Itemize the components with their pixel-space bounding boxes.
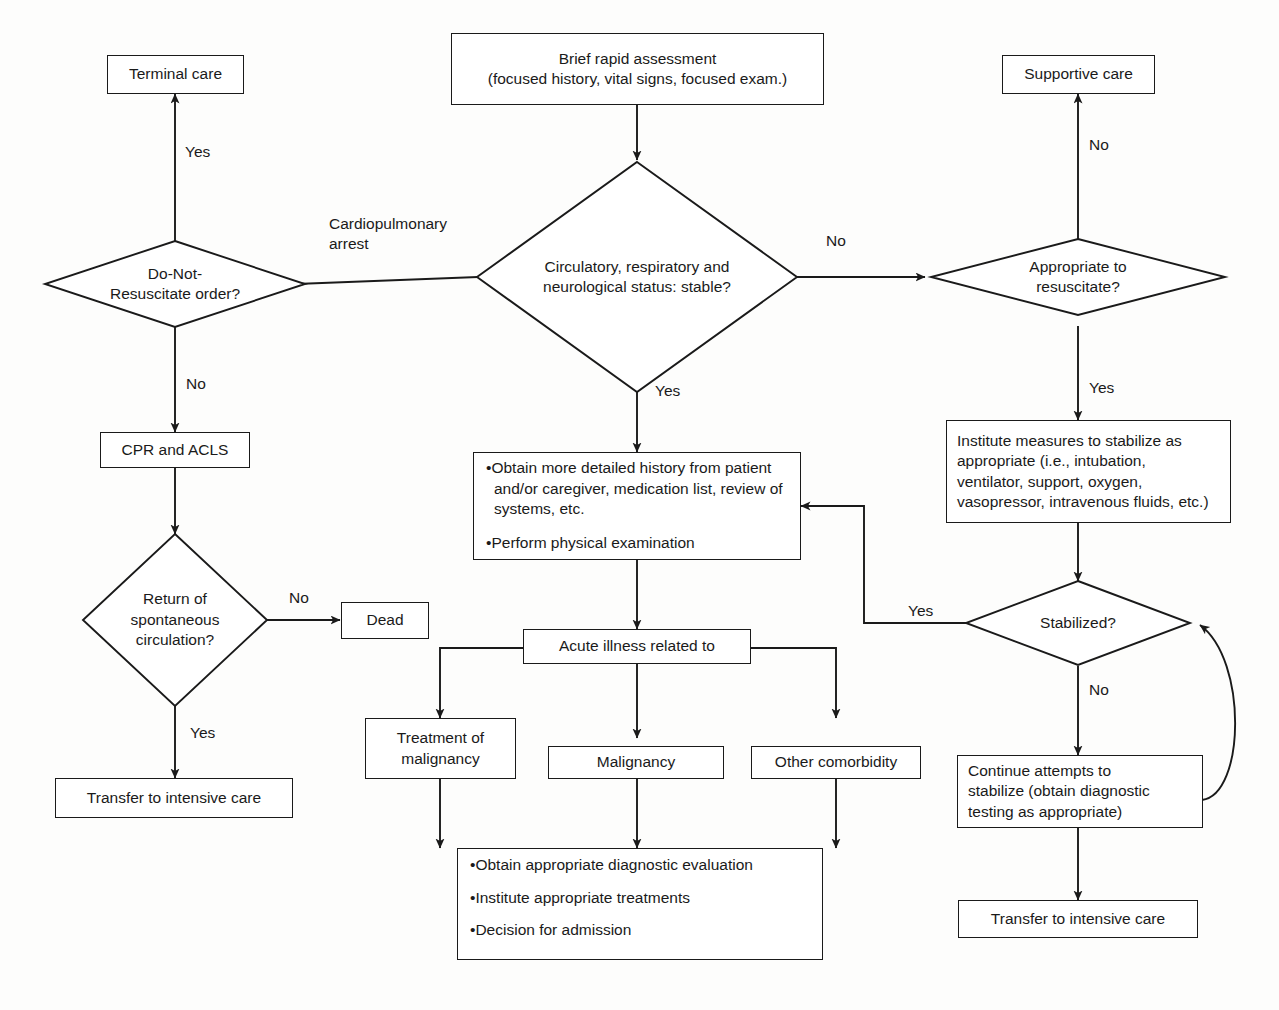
list-item: •Decision for admission	[470, 920, 810, 940]
node-transfer-to-intensive-care-left[interactable]: Transfer to intensive care	[55, 778, 293, 818]
node-malignancy-label: Malignancy	[549, 752, 723, 772]
node-acute-illness-related-to-label: Acute illness related to	[524, 636, 750, 656]
node-terminal-care[interactable]: Terminal care	[107, 55, 244, 94]
node-detailed-history[interactable]: •Obtain more detailed history from patie…	[473, 452, 801, 560]
edge-label-cardiopulmonary-arrest: Cardiopulmonary arrest	[329, 214, 447, 254]
list-item: •Obtain appropriate diagnostic evaluatio…	[470, 855, 810, 875]
edge-label-rosc-yes: Yes	[190, 723, 215, 743]
edge-label-resuscitate-no: No	[1089, 135, 1109, 155]
node-cpr-and-acls-label: CPR and ACLS	[101, 440, 249, 460]
decision-return-of-spontaneous-circulation[interactable]: Return of spontaneous circulation?	[83, 534, 267, 706]
node-diagnostic-plan[interactable]: •Obtain appropriate diagnostic evaluatio…	[457, 848, 823, 960]
decision-stabilized-label: Stabilized?	[966, 581, 1190, 665]
decision-dnr-order[interactable]: Do-Not- Resuscitate order?	[45, 241, 305, 327]
edge-label-stabilized-no: No	[1089, 680, 1109, 700]
node-transfer-to-intensive-care-right[interactable]: Transfer to intensive care	[958, 900, 1198, 938]
node-supportive-care[interactable]: Supportive care	[1002, 55, 1155, 94]
node-acute-illness-related-to[interactable]: Acute illness related to	[523, 629, 751, 664]
node-other-comorbidity-label: Other comorbidity	[752, 752, 920, 772]
node-detailed-history-bullets: •Obtain more detailed history from patie…	[474, 458, 800, 554]
list-item: •Perform physical examination	[486, 533, 788, 553]
decision-return-of-spontaneous-circulation-label: Return of spontaneous circulation?	[83, 534, 267, 706]
node-diagnostic-plan-bullets: •Obtain appropriate diagnostic evaluatio…	[458, 855, 822, 952]
edge-label-rosc-no: No	[289, 588, 309, 608]
node-brief-rapid-assessment-text: Brief rapid assessment (focused history,…	[452, 49, 823, 90]
node-other-comorbidity[interactable]: Other comorbidity	[751, 746, 921, 779]
edge-label-status-no: No	[826, 231, 846, 251]
decision-status-stable[interactable]: Circulatory, respiratory and neurologica…	[477, 162, 797, 392]
node-continue-attempts-to-stabilize[interactable]: Continue attempts to stabilize (obtain d…	[957, 755, 1203, 828]
edge-label-status-yes: Yes	[655, 381, 680, 401]
node-institute-measures-text: Institute measures to stabilize as appro…	[947, 431, 1230, 513]
node-institute-measures[interactable]: Institute measures to stabilize as appro…	[946, 420, 1231, 523]
decision-stabilized[interactable]: Stabilized?	[966, 581, 1190, 665]
decision-dnr-order-label: Do-Not- Resuscitate order?	[45, 241, 305, 327]
node-treatment-of-malignancy-text: Treatment of malignancy	[366, 728, 515, 769]
node-dead-label: Dead	[342, 610, 428, 630]
node-brief-rapid-assessment[interactable]: Brief rapid assessment (focused history,…	[451, 33, 824, 105]
node-transfer-to-intensive-care-right-label: Transfer to intensive care	[959, 909, 1197, 929]
node-transfer-to-intensive-care-left-label: Transfer to intensive care	[56, 788, 292, 808]
list-item: •Institute appropriate treatments	[470, 888, 810, 908]
decision-status-stable-label: Circulatory, respiratory and neurologica…	[477, 162, 797, 392]
decision-appropriate-to-resuscitate-label: Appropriate to resuscitate?	[931, 239, 1225, 315]
flowchart-canvas: Do-Not- Resuscitate order? Circulatory, …	[0, 0, 1279, 1010]
edge-label-resuscitate-yes: Yes	[1089, 378, 1114, 398]
node-dead[interactable]: Dead	[341, 602, 429, 639]
node-cpr-and-acls[interactable]: CPR and ACLS	[100, 432, 250, 468]
list-item: •Obtain more detailed history from patie…	[486, 458, 788, 519]
edge-label-stabilized-yes: Yes	[908, 601, 933, 621]
edge-label-dnr-yes: Yes	[185, 142, 210, 162]
edge-label-dnr-no: No	[186, 374, 206, 394]
node-treatment-of-malignancy[interactable]: Treatment of malignancy	[365, 718, 516, 779]
node-terminal-care-label: Terminal care	[108, 64, 243, 84]
node-continue-attempts-to-stabilize-text: Continue attempts to stabilize (obtain d…	[958, 761, 1202, 822]
node-malignancy[interactable]: Malignancy	[548, 746, 724, 779]
decision-appropriate-to-resuscitate[interactable]: Appropriate to resuscitate?	[931, 239, 1225, 315]
node-supportive-care-label: Supportive care	[1003, 64, 1154, 84]
